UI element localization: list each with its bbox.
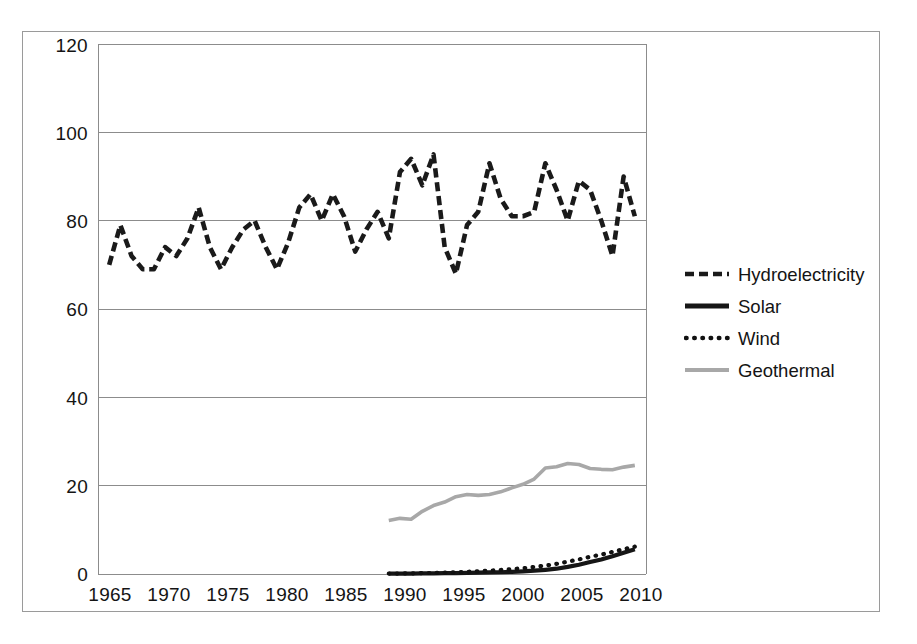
y-axis-tick-120: 120: [32, 36, 88, 55]
x-axis-tick-2010: 2010: [606, 585, 676, 604]
legend-item-hydroelectricity[interactable]: Hydroelectricity: [684, 258, 884, 290]
gray-line-swatch-icon: [684, 361, 730, 379]
legend-item-geothermal[interactable]: Geothermal: [684, 354, 884, 386]
legend-label-geothermal: Geothermal: [738, 361, 835, 380]
chart-figure: 120 100 80 60 40 20 0 1965 1970 1975 198…: [0, 0, 917, 644]
solid-line-swatch-icon: [684, 297, 730, 315]
dashed-line-swatch-icon: [684, 265, 730, 283]
legend-item-wind[interactable]: Wind: [684, 322, 884, 354]
chart-legend: Hydroelectricity Solar Wind: [684, 258, 884, 386]
dotted-line-swatch-icon: [684, 329, 730, 347]
legend-label-solar: Solar: [738, 297, 781, 316]
legend-label-wind: Wind: [738, 329, 780, 348]
legend-label-hydroelectricity: Hydroelectricity: [738, 265, 864, 284]
y-axis-tick-100: 100: [32, 124, 88, 143]
y-axis-tick-60: 60: [32, 300, 88, 319]
y-axis-tick-80: 80: [32, 212, 88, 231]
y-axis-tick-20: 20: [32, 477, 88, 496]
y-axis-tick-40: 40: [32, 389, 88, 408]
legend-item-solar[interactable]: Solar: [684, 290, 884, 322]
y-axis-tick-0: 0: [32, 565, 88, 584]
